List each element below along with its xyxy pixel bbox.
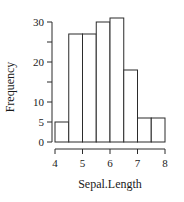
x-tick-label: 5 — [80, 157, 86, 169]
histogram-bar — [96, 22, 110, 142]
x-tick-label: 4 — [52, 157, 58, 169]
histogram-bar — [110, 18, 124, 142]
y-axis-title: Frequency — [3, 62, 17, 113]
y-tick-label: 20 — [33, 56, 45, 68]
histogram-bar — [55, 122, 69, 142]
y-tick-label: 5 — [39, 116, 45, 128]
histogram-bar — [124, 70, 138, 142]
x-axis-title: Sepal.Length — [78, 177, 142, 191]
histogram-bar — [83, 34, 97, 142]
x-tick-label: 8 — [162, 157, 168, 169]
x-axis: 45678 — [52, 149, 168, 169]
y-axis: 05102030 — [33, 16, 52, 148]
bars-group — [55, 18, 165, 142]
y-tick-label: 10 — [33, 96, 45, 108]
x-tick-label: 6 — [107, 157, 113, 169]
histogram-bar — [151, 118, 165, 142]
histogram-bar — [69, 34, 83, 142]
y-tick-label: 30 — [33, 16, 45, 28]
histogram-bar — [138, 118, 152, 142]
x-tick-label: 7 — [135, 157, 141, 169]
histogram-chart: 05102030 45678 Frequency Sepal.Length — [0, 0, 184, 202]
y-tick-label: 0 — [39, 136, 45, 148]
